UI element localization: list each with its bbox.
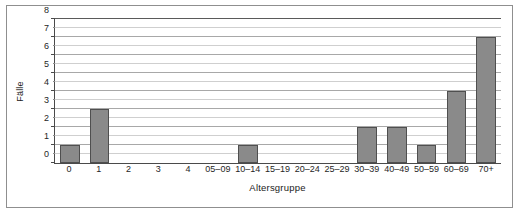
chart-figure: Fälle 012345678 0123405–0910–1415–1920–2… — [6, 5, 513, 208]
bar[interactable] — [357, 127, 377, 163]
x-axis-tick-label: 05–09 — [203, 165, 233, 174]
bar-slot — [144, 19, 174, 163]
y-axis-tick-label: 5 — [44, 60, 49, 69]
bar[interactable] — [476, 37, 496, 163]
y-axis-tick-label: 2 — [44, 114, 49, 123]
x-axis-tick-label: 70+ — [471, 165, 501, 174]
y-axis-tick-label: 7 — [44, 24, 49, 33]
bar-series — [55, 19, 501, 163]
bar-slot — [263, 19, 293, 163]
bar-slot — [204, 19, 234, 163]
y-axis-tick-label: 4 — [44, 78, 49, 87]
bar[interactable] — [387, 127, 407, 163]
bar-slot — [85, 19, 115, 163]
y-axis-tick-label: 1 — [44, 132, 49, 141]
x-axis-title: Altersgruppe — [54, 182, 501, 193]
x-axis-tick-label: 25–29 — [322, 165, 352, 174]
bar-slot — [55, 19, 85, 163]
x-axis-tick-label: 20–24 — [292, 165, 322, 174]
x-axis-tick-label: 50–59 — [412, 165, 442, 174]
x-axis-tick-label: 1 — [84, 165, 114, 174]
x-axis-tick-label: 3 — [143, 165, 173, 174]
x-axis-tick-label: 15–19 — [263, 165, 293, 174]
bar[interactable] — [60, 145, 80, 163]
y-axis-tick-label: 0 — [44, 150, 49, 159]
bar-slot — [114, 19, 144, 163]
y-axis-tick-label: 3 — [44, 96, 49, 105]
bar-slot — [352, 19, 382, 163]
x-axis-tick-label: 2 — [114, 165, 144, 174]
x-axis-tick-label: 10–14 — [233, 165, 263, 174]
bar[interactable] — [90, 109, 110, 163]
x-axis-tick-label: 30–39 — [352, 165, 382, 174]
bar-slot — [323, 19, 353, 163]
plot-area: 012345678 — [54, 19, 501, 164]
bar[interactable] — [417, 145, 437, 163]
bar-slot — [293, 19, 323, 163]
bar-slot — [382, 19, 412, 163]
y-axis-tick-label: 6 — [44, 42, 49, 51]
y-axis-tick-label: 8 — [44, 6, 49, 15]
x-axis-tick-labels: 0123405–0910–1415–1920–2425–2930–3940–49… — [54, 165, 501, 174]
x-axis-tick-label: 0 — [54, 165, 84, 174]
x-axis-tick-label: 60–69 — [441, 165, 471, 174]
bar-slot — [174, 19, 204, 163]
bar-slot — [233, 19, 263, 163]
y-axis-title: Fälle — [13, 19, 27, 164]
x-axis-tick-label: 40–49 — [382, 165, 412, 174]
bar[interactable] — [238, 145, 258, 163]
x-axis-tick-label: 4 — [173, 165, 203, 174]
bar-slot — [442, 19, 472, 163]
bar[interactable] — [447, 91, 467, 163]
bar-slot — [412, 19, 442, 163]
bar-slot — [471, 19, 501, 163]
